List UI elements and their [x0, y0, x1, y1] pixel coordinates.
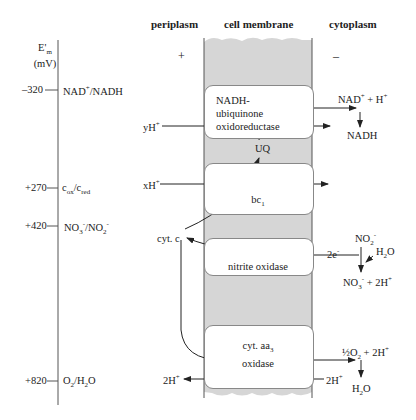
label-ubiquinone: UQ — [255, 144, 270, 155]
redox-couple-nad: NAD+/NADH — [63, 85, 123, 97]
redox-couple-nitrate: NO3-/NO2- — [64, 221, 109, 236]
label-2H-periplasm: 2H+ — [163, 374, 180, 386]
periplasm-charge: + — [178, 50, 185, 62]
complex-label: nitrite oxidase — [204, 262, 312, 273]
tick-value: +820 — [25, 376, 47, 387]
complex-label: NADH-ubiquinoneoxidoreductase — [216, 94, 280, 133]
label-yH: yH+ — [143, 121, 160, 133]
complex-label: cyt. aa3oxidase — [204, 339, 312, 370]
label-no2: NO2- — [355, 232, 376, 247]
complex-label: bc1 — [204, 195, 312, 208]
redox-couple-oxygen: O2/H2O — [63, 376, 96, 389]
label-xH: xH+ — [143, 179, 160, 191]
axis-label: E'm(mV) — [30, 43, 60, 70]
tick-value: +420 — [25, 221, 47, 232]
label-nad-plus: NAD+ + H+ — [338, 93, 387, 105]
label-half-o2: ½O2 + 2H+ — [342, 346, 389, 361]
cytoplasm-charge: – — [333, 50, 339, 62]
label-no3: NO3- + 2H+ — [343, 276, 392, 291]
label-2e: 2e- — [327, 248, 339, 260]
tick-value: –320 — [22, 85, 43, 96]
label-nadh: NADH — [347, 131, 377, 142]
label-cyt-c: cyt. c — [157, 234, 180, 245]
label-h2o-output: H2O — [352, 384, 371, 397]
tick-value: +270 — [25, 183, 47, 194]
label-2H-cytoplasm: 2H+ — [326, 374, 343, 386]
label-h2o-input: H2O — [376, 247, 395, 260]
redox-couple-cyt: cox/cred — [62, 183, 90, 196]
